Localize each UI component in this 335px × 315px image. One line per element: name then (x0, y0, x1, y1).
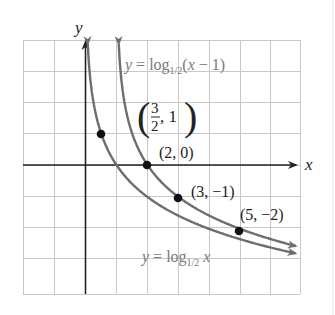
y-axis-label: y (73, 18, 83, 37)
curve-label-base: y = log1/2 x (140, 248, 210, 268)
x-axis-label: x (304, 155, 313, 174)
point-3-neg1 (174, 194, 183, 203)
point-label-3-neg1: (3, −1) (191, 183, 235, 201)
point-5-neg2 (235, 227, 244, 236)
graph-canvas: y x y = log1/2(x − 1) y = log1/2 x ( 3 2… (0, 0, 335, 315)
point-label-5-neg2: (5, −2) (240, 206, 284, 224)
close-paren: ) (184, 94, 197, 139)
point-label-2-0: (2, 0) (159, 144, 194, 162)
point-2-0 (143, 161, 152, 170)
point-three-halves-1 (97, 130, 106, 139)
fraction-numerator: 3 (151, 100, 159, 116)
fraction-denominator: 2 (151, 118, 159, 134)
point-label-three-halves-1: ( 3 2 , 1 ) (137, 94, 197, 139)
log-graph-figure: y x y = log1/2(x − 1) y = log1/2 x ( 3 2… (0, 0, 335, 315)
open-paren: ( (137, 94, 150, 139)
fraction-rest: , 1 (160, 107, 177, 126)
